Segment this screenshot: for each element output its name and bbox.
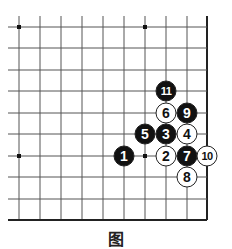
black-stone-1: 1 <box>114 146 134 166</box>
move-number: 5 <box>141 126 149 142</box>
move-number: 4 <box>183 126 191 142</box>
move-number: 8 <box>183 169 191 185</box>
board-grid <box>8 16 207 220</box>
diagram-caption: 图 <box>0 232 232 248</box>
star-point-icon <box>17 154 21 158</box>
move-number: 7 <box>183 148 191 164</box>
black-stone-3: 3 <box>156 124 176 144</box>
black-stone-9: 9 <box>177 103 197 123</box>
move-number: 1 <box>120 148 128 164</box>
move-number: 2 <box>162 148 170 164</box>
move-number: 3 <box>162 126 170 142</box>
white-stone-8: 8 <box>177 167 197 187</box>
white-stone-4: 4 <box>177 124 197 144</box>
move-number: 10 <box>201 150 213 162</box>
black-stone-11: 11 <box>156 81 176 101</box>
star-point-icon <box>143 25 147 29</box>
black-stone-5: 5 <box>135 124 155 144</box>
white-stone-6: 6 <box>156 103 176 123</box>
black-stone-7: 7 <box>177 146 197 166</box>
star-point-icon <box>17 25 21 29</box>
star-point-icon <box>143 154 147 158</box>
white-stone-10: 10 <box>197 146 217 166</box>
white-stone-2: 2 <box>156 146 176 166</box>
move-number: 11 <box>161 85 172 97</box>
move-number: 6 <box>162 105 170 121</box>
move-number: 9 <box>183 105 191 121</box>
